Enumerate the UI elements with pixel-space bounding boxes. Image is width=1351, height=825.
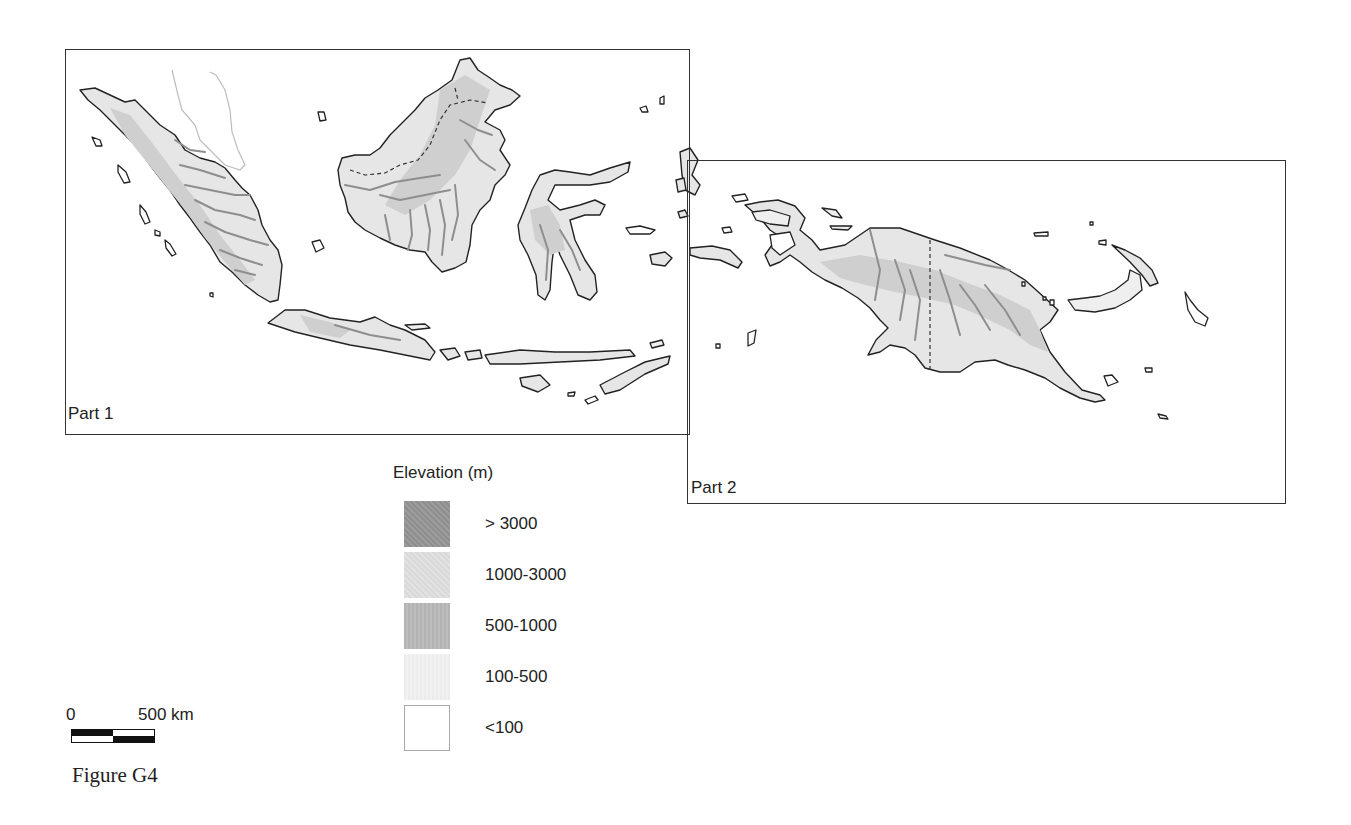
legend-swatch-100-500 [404,654,450,700]
legend-label-lt-100: <100 [485,718,523,738]
legend-label-1000-3000: 1000-3000 [485,565,566,585]
legend-swatch-lt-100 [404,705,450,751]
legend-label-500-1000: 500-1000 [485,616,557,636]
part2-frame [687,160,1286,504]
figure-caption: Figure G4 [72,763,158,788]
scale-bar-segment-1 [72,730,113,736]
legend-swatch-500-1000 [404,603,450,649]
scale-bar [71,729,155,743]
legend-title: Elevation (m) [393,463,493,483]
scale-start-label: 0 [66,705,75,725]
legend-label-gt-3000: > 3000 [485,514,537,534]
part1-label: Part 1 [68,404,113,424]
legend-swatch-1000-3000 [404,552,450,598]
legend-label-100-500: 100-500 [485,667,547,687]
legend-swatch-gt-3000 [404,501,450,547]
part1-frame [65,49,690,435]
scale-end-label: 500 km [138,705,194,725]
scale-bar-segment-2 [113,736,154,742]
part2-label: Part 2 [691,478,736,498]
